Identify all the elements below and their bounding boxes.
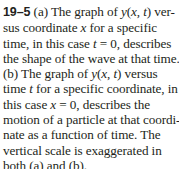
caption-text: for a specific coordinate, in: [33, 81, 178, 96]
caption-text: the shape of the wave at that time.: [3, 51, 179, 66]
caption-line-9: nate as a function of time. The: [3, 127, 179, 142]
caption-text: (b) The graph of: [3, 66, 91, 81]
figure-caption: 19–5 (a) The graph of y(x, t) ver- sus c…: [3, 4, 179, 169]
caption-text: for a specific: [86, 20, 157, 35]
caption-text: time, in this case: [3, 36, 93, 51]
caption-text: time: [3, 81, 29, 96]
caption-text: = 0, describes the: [56, 97, 150, 112]
caption-line-1: 19–5 (a) The graph of y(x, t) ver-: [3, 4, 179, 20]
caption-text: ) ver-: [147, 4, 175, 19]
caption-text: vertical scale is exaggerated in: [3, 143, 162, 158]
caption-line-7: this case x = 0, describes the: [3, 97, 179, 112]
caption-text: both (a) and (b).: [3, 158, 87, 169]
caption-line-6: time t for a specific coordinate, in: [3, 81, 179, 96]
caption-text: this case: [3, 97, 50, 112]
caption-text: sus coordinate: [3, 20, 81, 35]
caption-text: motion of a particle at that coordi-: [3, 112, 179, 127]
caption-text: ) versus: [117, 66, 158, 81]
figure-number: 19–5: [3, 5, 30, 19]
caption-text: = 0, describes: [97, 36, 172, 51]
caption-line-5: (b) The graph of y(x, t) versus: [3, 66, 179, 81]
caption-line-2: sus coordinate x for a specific: [3, 20, 179, 35]
caption-text: (a) The graph of: [30, 4, 121, 19]
caption-line-10: vertical scale is exaggerated in: [3, 143, 179, 158]
caption-line-11: both (a) and (b).: [3, 158, 179, 169]
caption-line-8: motion of a particle at that coordi-: [3, 112, 179, 127]
caption-text: nate as a function of time. The: [3, 127, 160, 142]
caption-line-3: time, in this case t = 0, describes: [3, 36, 179, 51]
caption-line-4: the shape of the wave at that time.: [3, 51, 179, 66]
